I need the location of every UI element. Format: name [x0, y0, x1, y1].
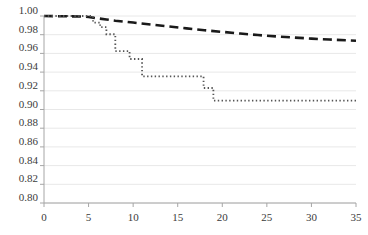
gridlines [44, 16, 356, 203]
axis-ticks [40, 16, 356, 207]
chart-plot-area [0, 0, 368, 235]
series-dashed-curve [44, 16, 356, 41]
data-series-layer [44, 16, 356, 101]
chart-container: 0.800.820.840.860.880.900.920.940.960.98… [0, 0, 368, 235]
